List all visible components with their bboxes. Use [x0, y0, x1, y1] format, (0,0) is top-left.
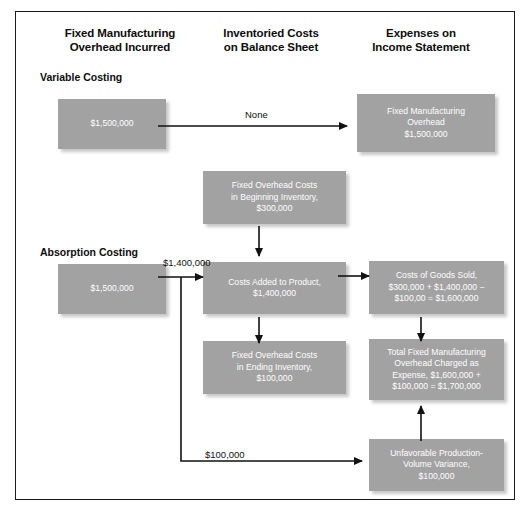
section-label-variable-costing: Variable Costing — [40, 71, 122, 83]
box-line: Overhead Charged as — [373, 358, 500, 369]
box-line: in Ending Inventory, — [207, 362, 342, 373]
box-line: Unfavorable Production- — [373, 448, 500, 459]
edge-label-costs-added-amount: $1,400,000 — [163, 257, 211, 268]
box-line: Volume Variance, — [373, 459, 500, 470]
box-line: $1,500,000 — [62, 118, 162, 129]
box-beginning-inventory: Fixed Overhead Costs in Beginning Invent… — [203, 171, 346, 224]
edge-label-variance-amount: $100,000 — [205, 449, 245, 460]
box-line: Fixed Overhead Costs — [207, 350, 342, 361]
section-label-absorption-costing: Absorption Costing — [40, 246, 138, 258]
box-ending-inventory: Fixed Overhead Costs in Ending Inventory… — [203, 341, 346, 394]
diagram-frame: Fixed Manufacturing Overhead Incurred In… — [15, 11, 515, 500]
box-costs-of-goods-sold: Costs of Goods Sold, $300,000 + $1,400,0… — [369, 261, 504, 314]
edge-label-none: None — [245, 109, 268, 120]
box-line: $1,400,000 — [207, 288, 342, 299]
box-line: $100,00 = $1,600,000 — [373, 293, 500, 304]
column-header-line2: on Balance Sheet — [196, 40, 346, 54]
box-variable-costing-expense: Fixed Manufacturing Overhead $1,500,000 — [357, 94, 495, 152]
column-header-inventoried-costs-on-balance-sheet: Inventoried Costs on Balance Sheet — [196, 26, 346, 54]
box-variable-costing-overhead-incurred: $1,500,000 — [58, 99, 166, 149]
box-line: $1,500,000 — [62, 283, 162, 294]
box-costs-added-to-product: Costs Added to Product, $1,400,000 — [203, 262, 346, 314]
box-line: Fixed Manufacturing — [361, 106, 491, 117]
box-line: in Beginning Inventory, — [207, 192, 342, 203]
box-line: Expense, $1,600,000 + — [373, 370, 500, 381]
box-production-volume-variance: Unfavorable Production- Volume Variance,… — [369, 439, 504, 491]
box-line: $100,000 = $1,700,000 — [373, 381, 500, 392]
box-line: Fixed Overhead Costs — [207, 180, 342, 191]
column-header-line1: Expenses on — [346, 26, 496, 40]
box-line: $100,000 — [207, 373, 342, 384]
column-header-fixed-manufacturing-overhead-incurred: Fixed Manufacturing Overhead Incurred — [40, 26, 200, 54]
box-line: $100,000 — [373, 471, 500, 482]
box-line: $1,500,000 — [361, 129, 491, 140]
column-header-line2: Income Statement — [346, 40, 496, 54]
column-header-line2: Overhead Incurred — [40, 40, 200, 54]
box-absorption-costing-overhead-incurred: $1,500,000 — [58, 264, 166, 314]
column-header-line1: Inventoried Costs — [196, 26, 346, 40]
box-line: Costs Added to Product, — [207, 277, 342, 288]
box-line: Overhead — [361, 117, 491, 128]
box-line: Total Fixed Manufacturing — [373, 347, 500, 358]
column-header-line1: Fixed Manufacturing — [40, 26, 200, 40]
box-line: $300,000 + $1,400,000 − — [373, 282, 500, 293]
box-line: $300,000 — [207, 203, 342, 214]
box-line: Costs of Goods Sold, — [373, 270, 500, 281]
column-header-expenses-on-income-statement: Expenses on Income Statement — [346, 26, 496, 54]
box-total-fixed-manufacturing-overhead: Total Fixed Manufacturing Overhead Charg… — [369, 339, 504, 400]
